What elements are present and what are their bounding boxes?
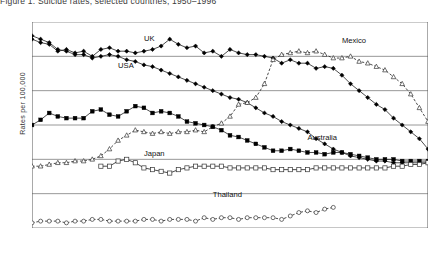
series-label-thailand: Thailand (213, 190, 242, 199)
data-point (142, 106, 146, 110)
data-point (150, 168, 154, 172)
data-point (64, 221, 68, 225)
data-point (400, 164, 404, 168)
data-point (280, 217, 284, 221)
data-point (263, 145, 267, 149)
data-point (125, 157, 129, 161)
chart-svg: 0246810121950195219541956195819601962196… (32, 22, 428, 228)
data-point (202, 85, 206, 89)
data-point (288, 214, 292, 218)
data-point (151, 217, 155, 221)
data-point (108, 113, 112, 117)
data-point (168, 217, 172, 221)
data-point (374, 157, 378, 161)
data-point (237, 135, 241, 139)
data-point (331, 166, 335, 170)
data-point (262, 81, 267, 85)
data-point (159, 129, 164, 133)
data-point (39, 219, 43, 223)
data-point (254, 166, 258, 170)
data-point (90, 217, 94, 221)
data-point (305, 168, 309, 172)
data-point (185, 166, 189, 170)
data-point (400, 81, 405, 85)
data-point (90, 109, 94, 113)
data-point (99, 54, 103, 58)
data-point (47, 111, 51, 115)
data-point (116, 159, 120, 163)
data-point (228, 166, 232, 170)
data-point (125, 219, 129, 223)
data-point (314, 66, 318, 70)
data-point (142, 217, 146, 221)
data-point (288, 58, 292, 62)
series-label-australia: Australia (307, 133, 337, 142)
data-point (254, 95, 259, 99)
data-point (254, 216, 258, 220)
data-point (305, 61, 309, 65)
data-point (366, 156, 370, 160)
data-point (150, 65, 154, 69)
data-point (159, 68, 163, 72)
data-point (107, 219, 111, 223)
series-australia: Australia (32, 104, 428, 163)
chart-figure: Figure 1. Suicide rates, selected countr… (0, 0, 442, 264)
data-point (185, 217, 189, 221)
data-point (228, 95, 232, 99)
data-point (417, 105, 422, 109)
data-point (391, 74, 396, 78)
data-point (176, 168, 180, 172)
data-point (193, 128, 198, 132)
data-point (39, 118, 43, 122)
data-point (32, 34, 34, 38)
data-point (314, 166, 318, 170)
series-label-uk: UK (144, 34, 155, 43)
data-point (193, 164, 197, 168)
data-point (297, 211, 301, 215)
data-point (176, 217, 180, 221)
data-point (237, 51, 241, 55)
data-point (383, 157, 387, 161)
data-point (323, 152, 327, 156)
data-point (314, 211, 318, 215)
data-point (133, 128, 138, 132)
data-point (202, 216, 206, 220)
data-point (271, 216, 275, 220)
data-point (125, 109, 129, 113)
data-point (305, 209, 309, 213)
data-point (39, 37, 43, 41)
data-point (366, 166, 370, 170)
data-point (314, 151, 318, 155)
data-point (116, 49, 120, 53)
data-point (314, 49, 319, 53)
data-point (228, 133, 232, 137)
data-point (392, 157, 396, 161)
data-point (133, 219, 137, 223)
data-point (99, 108, 103, 112)
data-point (185, 78, 189, 82)
data-point (219, 92, 223, 96)
data-point (211, 89, 215, 93)
data-point (56, 219, 60, 223)
data-point (219, 216, 223, 220)
data-point (391, 164, 395, 168)
data-point (185, 120, 189, 124)
data-point (374, 166, 378, 170)
data-point (340, 166, 344, 170)
data-point (133, 59, 137, 63)
data-point (323, 207, 327, 211)
data-point (331, 205, 335, 209)
data-point (417, 162, 421, 166)
data-point (271, 168, 275, 172)
data-point (211, 49, 215, 53)
data-point (73, 219, 77, 223)
data-point (219, 128, 223, 132)
data-point (202, 164, 206, 168)
series-japan: Japan (99, 149, 428, 175)
data-point (82, 116, 86, 120)
data-point (168, 71, 172, 75)
data-point (142, 63, 146, 67)
data-point (99, 217, 103, 221)
series-thailand: Thailand (32, 190, 335, 225)
data-point (331, 151, 335, 155)
